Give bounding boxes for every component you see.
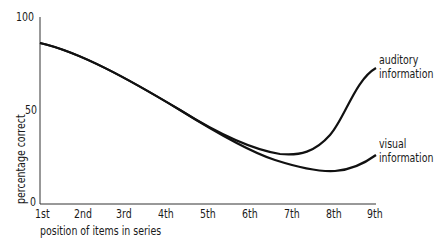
ytick-100: 100 xyxy=(16,10,34,24)
xtick-5th: 5th xyxy=(200,207,216,221)
visual-label-line1: visual xyxy=(379,137,406,151)
xtick-1st: 1st xyxy=(35,207,50,221)
visual-label-line2: information xyxy=(379,151,433,165)
y-axis-label: percentage correct xyxy=(14,114,28,204)
xtick-2nd: 2nd xyxy=(74,207,92,221)
visual-curve xyxy=(40,43,376,171)
xtick-4th: 4th xyxy=(158,207,174,221)
xtick-6th: 6th xyxy=(242,207,258,221)
xtick-8th: 8th xyxy=(326,207,342,221)
xtick-3rd: 3rd xyxy=(116,207,132,221)
auditory-label-line1: auditory xyxy=(379,53,418,67)
auditory-label-line2: information xyxy=(379,67,433,81)
x-axis-label: position of items in series xyxy=(40,224,161,238)
xtick-7th: 7th xyxy=(284,207,300,221)
auditory-curve xyxy=(40,43,376,154)
xtick-9th: 9th xyxy=(367,207,383,221)
